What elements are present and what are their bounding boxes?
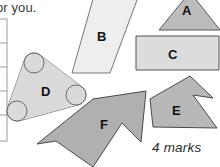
marks-text: 4 marks — [152, 140, 201, 155]
shape-d-corner-1 — [66, 85, 86, 105]
shape-label-d: D — [41, 85, 50, 98]
shape-label-a: A — [182, 4, 191, 17]
shape-d-corner-0 — [24, 53, 44, 73]
shape-d-corner-2 — [7, 101, 27, 121]
shape-e — [150, 76, 217, 128]
shape-label-c: C — [168, 48, 177, 61]
shape-label-b: B — [97, 30, 106, 43]
marks-column-rule — [0, 19, 7, 141]
shape-label-e: E — [172, 104, 181, 117]
question-page: or you. A B C D E F 4 marks — [0, 0, 220, 167]
shape-label-f: F — [100, 118, 108, 131]
shape-c — [136, 36, 219, 70]
